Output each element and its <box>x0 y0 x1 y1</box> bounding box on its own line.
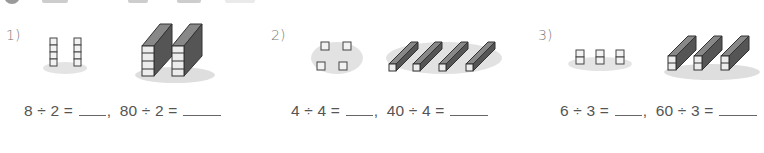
equation-row: 4 ÷ 4 = , 40 ÷ 4 = <box>291 101 489 120</box>
equation-2: 40 ÷ 4 = <box>387 102 445 119</box>
equation-1: 6 ÷ 3 = <box>560 102 609 119</box>
ten-rods-model-icon <box>130 20 220 85</box>
ten-rods-model-icon <box>660 34 760 80</box>
answer-blank-1[interactable] <box>346 101 373 116</box>
answer-blank-1[interactable] <box>615 101 642 116</box>
equation-2: 80 ÷ 2 = <box>120 102 178 119</box>
equation-row: 8 ÷ 2 = , 80 ÷ 2 = <box>24 101 222 120</box>
problem-number: 2) <box>271 27 285 43</box>
problem-1: 1) 8 ÷ 2 = , 80 ÷ 2 = <box>0 0 255 153</box>
problem-3: 3) <box>510 0 764 153</box>
problem-number: 3) <box>538 27 552 43</box>
equation-1: 8 ÷ 2 = <box>24 102 73 119</box>
answer-blank-1[interactable] <box>79 101 106 116</box>
equation-row: 6 ÷ 3 = , 60 ÷ 3 = <box>560 101 758 120</box>
problem-2: 2) <box>255 0 510 153</box>
ten-rods-model-icon <box>385 38 503 78</box>
answer-blank-2[interactable] <box>450 101 488 116</box>
unit-cubes-model-icon <box>307 38 367 78</box>
answer-blank-2[interactable] <box>183 101 221 116</box>
answer-blank-2[interactable] <box>719 101 757 116</box>
unit-cubes-model-icon <box>38 30 98 75</box>
problem-number: 1) <box>6 27 20 43</box>
equation-1: 4 ÷ 4 = <box>291 102 340 119</box>
equation-2: 60 ÷ 3 = <box>656 102 714 119</box>
unit-cubes-model-icon <box>566 44 636 74</box>
